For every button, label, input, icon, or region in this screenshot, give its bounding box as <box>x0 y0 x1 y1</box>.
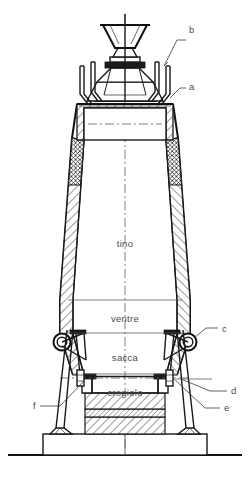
zone-label-sacca: sacca <box>112 352 139 363</box>
blast-furnace-diagram: tino ventre sacca crogiolo b a c d e f <box>0 0 250 482</box>
taphole-right <box>166 370 173 386</box>
callout-label-c: c <box>222 323 227 334</box>
hearth-bottom-refractory <box>85 393 165 434</box>
callout-label-d: d <box>231 385 236 396</box>
zone-label-crogiolo: crogiolo <box>107 387 143 398</box>
callout-label-b: b <box>189 24 194 35</box>
zone-label-tino: tino <box>117 238 134 249</box>
taphole-left <box>77 370 84 386</box>
figure-root: tino ventre sacca crogiolo b a c d e f <box>0 0 250 482</box>
callout-label-a: a <box>189 81 195 92</box>
zone-label-ventre: ventre <box>111 313 139 324</box>
callout-label-e: e <box>224 402 229 413</box>
throat-ring <box>77 104 173 140</box>
callout-label-f: f <box>33 400 36 411</box>
